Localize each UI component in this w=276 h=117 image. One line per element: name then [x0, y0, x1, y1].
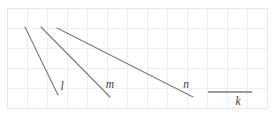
line-segment-l: [25, 27, 58, 95]
line-label-m: m: [106, 78, 114, 90]
geometry-figure: lmnk: [0, 0, 276, 117]
line-label-l: l: [60, 80, 63, 92]
line-label-n: n: [183, 78, 189, 90]
line-label-k: k: [235, 95, 241, 107]
grid-layer: [7, 8, 268, 109]
lines-layer: [25, 27, 252, 97]
figure-canvas: lmnk: [0, 0, 276, 117]
line-segment-n: [57, 28, 193, 97]
